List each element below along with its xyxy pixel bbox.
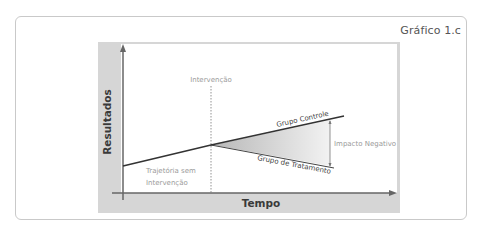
y-axis-label: Resultados [101, 89, 113, 155]
chart: Resultados Tempo Intervenção Grupo Contr… [0, 0, 483, 230]
x-axis-label: Tempo [242, 197, 281, 209]
intervention-label: Intervenção [190, 76, 232, 84]
trajectory-label-line1: Trajetória sem [145, 167, 196, 175]
trajectory-label-line2: Intervenção [146, 179, 188, 187]
impact-label: Impacto Negativo [334, 140, 396, 148]
